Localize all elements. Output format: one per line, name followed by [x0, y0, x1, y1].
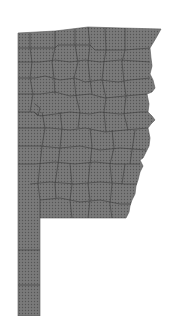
map-container: Arkansas county map (shaded)	[0, 0, 177, 316]
state-map	[0, 0, 177, 316]
